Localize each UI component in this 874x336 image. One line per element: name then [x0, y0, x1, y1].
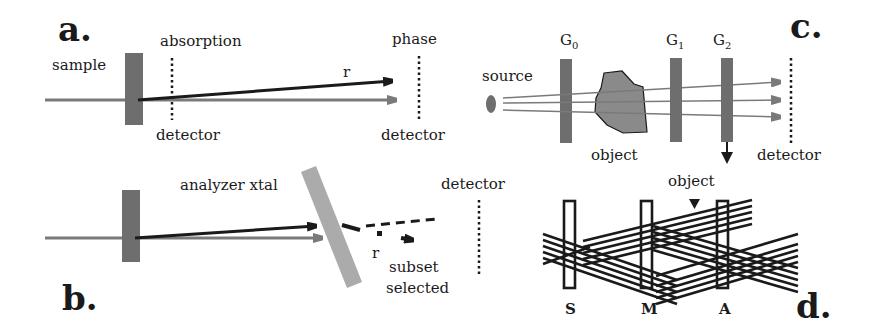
subset-label-line2: selected — [386, 279, 450, 297]
g1-label: G1 — [666, 31, 684, 51]
panel-d: d. object S M A — [543, 172, 832, 326]
panel-b: b. analyzer xtal detector r subset selec… — [45, 166, 506, 318]
label-s: S — [565, 300, 576, 318]
source-label: source — [482, 67, 533, 85]
source-ellipse — [486, 95, 496, 113]
analyzer-label: analyzer xtal — [180, 176, 278, 194]
panel-a: a. sample absorption detector phase dete… — [45, 9, 446, 144]
panel-letter-c: c. — [790, 6, 823, 46]
sample-block — [125, 53, 143, 125]
refraction-label: r — [343, 63, 351, 81]
sample-block-b — [122, 190, 140, 262]
g2-label: G2 — [713, 31, 731, 51]
g2-shift-arrow-icon — [721, 152, 733, 164]
label-m: M — [641, 300, 658, 318]
refracted-beam-arrow-b — [135, 226, 316, 238]
absorption-label: absorption — [160, 32, 242, 50]
detector-label-b: detector — [441, 175, 506, 193]
grating-g2 — [721, 58, 733, 142]
phase-label: phase — [392, 30, 437, 48]
object-pointer-icon — [689, 199, 700, 209]
rejected-beam-dashed — [366, 219, 436, 226]
refracted-beam-arrow — [138, 81, 392, 100]
label-a: A — [718, 300, 731, 318]
figure: a. sample absorption detector phase dete… — [0, 0, 874, 336]
reflected-beam-segment — [342, 225, 360, 230]
panel-c: c. source G0 G1 G2 object detector — [482, 6, 823, 164]
beam-dot — [377, 231, 382, 236]
beam-bundles — [543, 200, 798, 304]
subset-label-line1: subset — [389, 258, 439, 276]
phase-detector-label: detector — [381, 126, 446, 144]
object-label-c: object — [591, 146, 638, 164]
g0-label: G0 — [560, 31, 578, 51]
grating-g0 — [560, 59, 572, 143]
grating-g1 — [670, 58, 682, 142]
absorption-detector-label: detector — [156, 126, 221, 144]
panel-letter-d: d. — [796, 286, 832, 326]
detector-label-c: detector — [757, 146, 822, 164]
selected-subset-arrow — [401, 238, 413, 240]
panel-letter-a: a. — [58, 9, 92, 49]
panel-letter-b: b. — [62, 278, 98, 318]
object-label-d: object — [668, 172, 715, 190]
refraction-label-b: r — [372, 244, 380, 262]
sample-label: sample — [52, 56, 106, 74]
